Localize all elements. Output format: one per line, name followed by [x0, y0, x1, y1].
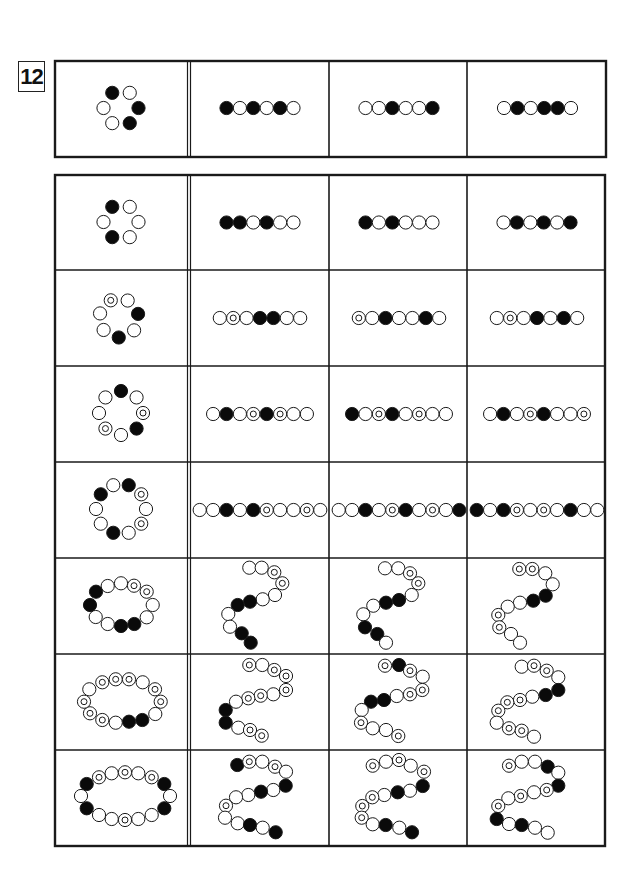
- white-bead: [256, 658, 269, 671]
- double-circle-bead: [276, 577, 289, 590]
- white-bead: [357, 608, 370, 621]
- double-circle-bead: [378, 659, 391, 672]
- white-bead: [123, 200, 136, 213]
- white-bead: [105, 812, 118, 825]
- white-bead: [314, 503, 327, 516]
- double-circle-bead: [513, 693, 526, 706]
- example-option-1: [220, 101, 300, 114]
- white-bead: [207, 407, 220, 420]
- white-bead: [145, 808, 158, 821]
- black-bead: [490, 812, 503, 825]
- white-bead: [114, 577, 127, 590]
- white-bead: [552, 766, 565, 779]
- target-ring: [93, 294, 144, 344]
- white-bead: [92, 808, 105, 821]
- black-bead: [515, 818, 528, 831]
- black-bead: [231, 758, 244, 771]
- white-bead: [564, 101, 577, 114]
- answer-option-3[interactable]: [470, 503, 604, 516]
- answer-option-1[interactable]: [207, 407, 314, 420]
- white-bead: [541, 826, 554, 839]
- answer-option-1[interactable]: [193, 503, 327, 516]
- white-bead: [123, 86, 136, 99]
- black-bead: [269, 826, 282, 839]
- white-bead: [484, 503, 497, 516]
- answer-option-3[interactable]: [492, 562, 560, 649]
- black-bead: [557, 311, 570, 324]
- answer-option-2[interactable]: [359, 216, 439, 229]
- white-bead: [274, 216, 287, 229]
- target-ring: [92, 384, 149, 441]
- black-bead: [386, 216, 399, 229]
- answer-option-3[interactable]: [490, 755, 565, 839]
- answer-option-1[interactable]: [219, 658, 293, 742]
- target-ring: [83, 577, 159, 633]
- white-bead: [346, 503, 359, 516]
- white-bead: [132, 812, 145, 825]
- white-bead: [268, 588, 281, 601]
- double-circle-bead: [386, 503, 399, 516]
- puzzle-row-7: [74, 753, 565, 839]
- double-circle-bead: [268, 566, 281, 579]
- answer-option-2[interactable]: [346, 407, 453, 420]
- white-bead: [577, 503, 590, 516]
- white-bead: [121, 294, 134, 307]
- white-bead: [99, 391, 112, 404]
- white-bead: [359, 407, 372, 420]
- double-circle-bead: [154, 695, 167, 708]
- double-circle-bead: [540, 664, 553, 677]
- white-bead: [97, 323, 110, 336]
- answer-option-1[interactable]: [213, 311, 307, 324]
- white-bead: [526, 690, 539, 703]
- black-bead: [497, 407, 510, 420]
- double-circle-bead: [502, 722, 515, 735]
- bead-pattern-puzzle: [0, 0, 634, 893]
- answer-option-2[interactable]: [332, 503, 466, 516]
- black-bead: [122, 479, 135, 492]
- black-bead: [219, 703, 232, 716]
- white-bead: [287, 407, 300, 420]
- white-bead: [497, 216, 510, 229]
- answer-option-1[interactable]: [222, 561, 289, 649]
- white-bead: [240, 311, 253, 324]
- black-bead: [122, 715, 135, 728]
- answer-option-2[interactable]: [355, 753, 431, 839]
- white-bead: [255, 561, 268, 574]
- white-bead: [107, 479, 120, 492]
- white-bead: [392, 311, 405, 324]
- black-bead: [254, 785, 267, 798]
- puzzle-row-6: [77, 658, 565, 743]
- double-circle-bead: [243, 755, 256, 768]
- black-bead: [527, 594, 540, 607]
- example-ring: [97, 86, 145, 130]
- answer-option-3[interactable]: [490, 659, 565, 743]
- black-bead: [358, 621, 371, 634]
- white-bead: [256, 755, 269, 768]
- answer-option-1[interactable]: [220, 216, 300, 229]
- answer-option-3[interactable]: [497, 216, 577, 229]
- answer-option-2[interactable]: [357, 562, 425, 650]
- double-circle-bead: [392, 729, 405, 742]
- puzzle-row-3: [92, 384, 590, 441]
- white-bead: [551, 503, 564, 516]
- black-bead: [89, 585, 102, 598]
- answer-option-2[interactable]: [354, 658, 429, 742]
- black-bead: [359, 216, 372, 229]
- double-circle-bead: [492, 799, 505, 812]
- black-bead: [399, 503, 412, 516]
- black-bead: [106, 200, 119, 213]
- answer-option-3[interactable]: [484, 407, 591, 420]
- puzzle-row-1: [97, 200, 577, 244]
- black-bead: [453, 503, 466, 516]
- white-bead: [399, 407, 412, 420]
- answer-option-1[interactable]: [218, 755, 292, 839]
- target-ring: [74, 766, 176, 827]
- black-bead: [123, 117, 136, 130]
- double-circle-bead: [392, 753, 405, 766]
- white-bead: [416, 670, 429, 683]
- white-bead: [527, 730, 540, 743]
- answer-option-3[interactable]: [490, 311, 584, 324]
- black-bead: [405, 826, 418, 839]
- double-circle-bead: [413, 407, 426, 420]
- answer-option-2[interactable]: [352, 311, 446, 324]
